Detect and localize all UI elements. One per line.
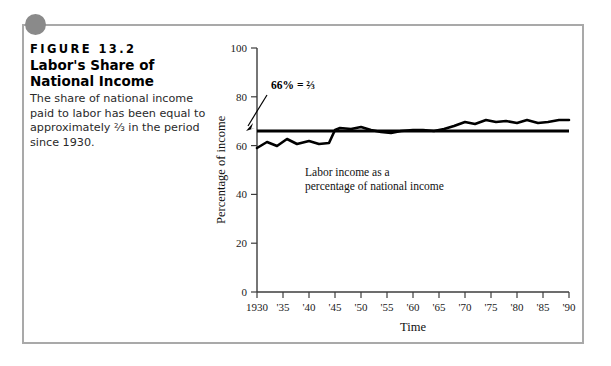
x-tick-label-1930: 1930 — [246, 301, 269, 313]
x-tick-label-1950: '50 — [355, 301, 368, 313]
annotation-arrow-head — [246, 123, 255, 131]
circle-bullet-icon — [25, 14, 46, 35]
x-axis-tick-labels: 1930 '35 '40 '45 '50 '55 '60 '65 '70 '75… — [246, 301, 576, 313]
x-axis-ticks — [257, 292, 569, 298]
y-axis-ticks — [251, 48, 257, 292]
x-tick-label-1940: '40 — [303, 301, 316, 313]
chart-plot-area: 100 80 60 40 20 0 1930 '35 '4 — [213, 34, 585, 334]
series-label-line2: percentage of national income — [305, 180, 444, 193]
y-tick-label-20: 20 — [236, 237, 248, 249]
x-tick-label-1955: '55 — [381, 301, 394, 313]
x-tick-label-1945: '45 — [329, 301, 342, 313]
y-tick-label-40: 40 — [236, 188, 248, 200]
y-tick-label-60: 60 — [236, 140, 248, 152]
y-axis-title: Percentage of income — [214, 115, 228, 224]
x-tick-label-1970: '70 — [459, 301, 472, 313]
x-tick-label-1960: '60 — [407, 301, 420, 313]
y-tick-label-100: 100 — [231, 42, 248, 54]
x-tick-label-1990: '90 — [563, 301, 576, 313]
y-tick-label-0: 0 — [242, 286, 248, 298]
figure-number: FIGURE 13.2 — [30, 42, 210, 56]
y-tick-label-80: 80 — [236, 91, 248, 103]
figure-description: The share of national income paid to lab… — [30, 92, 210, 150]
series-label-line1: Labor income as a — [305, 166, 390, 178]
x-tick-label-1935: '35 — [277, 301, 290, 313]
y-axis-tick-labels: 100 80 60 40 20 0 — [231, 42, 248, 298]
labor-income-series — [257, 120, 569, 148]
reference-line-label: 66% = ⅔ — [271, 79, 315, 91]
x-axis-title: Time — [400, 320, 426, 334]
x-tick-label-1980: '80 — [511, 301, 524, 313]
x-tick-label-1965: '65 — [433, 301, 446, 313]
x-tick-label-1975: '75 — [485, 301, 498, 313]
x-tick-label-1985: '85 — [537, 301, 550, 313]
figure-title: Labor's Share of National Income — [30, 58, 210, 89]
figure-caption: FIGURE 13.2 Labor's Share of National In… — [30, 42, 210, 150]
